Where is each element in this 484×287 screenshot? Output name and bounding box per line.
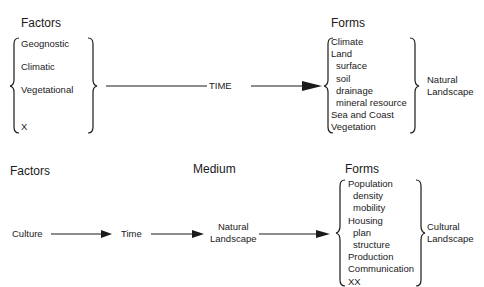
top-factors-heading: Factors [21,16,61,30]
bottom-factors-heading: Factors [10,164,50,178]
form-subitem: drainage [331,85,407,97]
bottom-forms-heading: Forms [345,162,379,176]
result-line: Natural [427,74,473,86]
time-label: Time [121,228,142,240]
arrowhead [316,230,330,238]
medium-line: Landscape [210,233,256,245]
form-item: Population [348,178,414,190]
arrowhead [302,81,322,91]
result-line: Landscape [427,86,473,98]
result-line: Cultural [427,221,473,233]
form-item: Housing [348,215,414,227]
form-subitem: surface [331,60,407,72]
arrowhead [192,230,204,238]
form-item: Land [331,48,407,60]
form-item: Climate [331,36,407,48]
forms-right-brace [410,38,419,133]
natural-landscape-result: Natural Landscape [427,74,473,98]
culture-label: Culture [12,228,43,240]
bottom-forms-left-brace [336,180,345,286]
result-line: Landscape [427,233,473,245]
form-subitem: structure [348,239,414,251]
form-subitem: plan [348,227,414,239]
factor-item: Geognostic [21,38,69,50]
form-item: Production [348,251,414,263]
medium-line: Natural [210,221,256,233]
form-subitem: mobility [348,202,414,214]
form-item: XX [348,276,414,287]
factor-item: Climatic [21,61,55,73]
time-arrow-label: TIME [209,80,232,92]
factors-right-brace [88,38,97,133]
form-item: Vegetation [331,121,407,133]
arrowhead [101,230,112,238]
cultural-landscape-result: Cultural Landscape [427,221,473,245]
form-subitem: mineral resource [331,97,407,109]
form-subitem: density [348,190,414,202]
factor-item: X [21,121,27,133]
bottom-forms-right-brace [416,180,425,286]
factors-left-brace [10,38,19,133]
factor-item: Vegetational [21,84,73,96]
form-item: Sea and Coast [331,109,407,121]
form-subitem: soil [331,73,407,85]
medium-natural-landscape: Natural Landscape [210,221,256,245]
top-forms-list: Climate Land surface soil drainage miner… [331,36,407,134]
form-item: Communication [348,263,414,275]
medium-heading: Medium [193,162,236,176]
bottom-forms-list: Population density mobility Housing plan… [348,178,414,287]
top-forms-heading: Forms [331,16,365,30]
